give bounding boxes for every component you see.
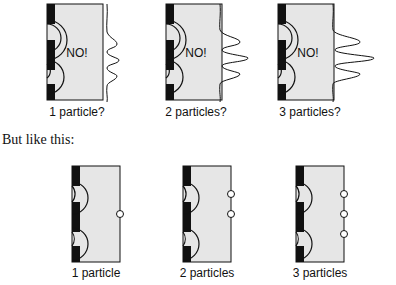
particle-dot [228,211,235,218]
particle-dot [341,231,348,238]
bottom-panel-2 [183,166,235,262]
top-panel-1: NO! [47,4,119,102]
interference-wave [107,4,119,102]
particle-dot [228,191,235,198]
no-label: NO! [66,46,87,60]
bottom-label-2: 2 particles [180,266,235,280]
bottom-panel-1 [72,166,124,262]
bottom-label-3: 3 particles [293,266,348,280]
particle-dot [341,211,348,218]
top-panel-2: NO! [166,4,248,102]
interference-wave [220,4,248,102]
top-label-2: 2 particles? [165,105,227,119]
particle-dot [341,191,348,198]
no-label: NO! [297,46,318,60]
transition-text: But like this: [2,132,74,147]
no-label: NO! [185,46,206,60]
top-label-3: 3 particles? [279,105,341,119]
top-panel-3: NO! [278,4,374,102]
bottom-panel-3 [296,166,348,262]
top-label-1: 1 particle? [49,105,105,119]
double-slit-diagram: NO! 1 particle? NO! 2 particles? NO! 3 p… [0,0,396,285]
particle-dot [117,211,124,218]
bottom-label-1: 1 particle [72,266,121,280]
interference-wave [333,4,374,102]
